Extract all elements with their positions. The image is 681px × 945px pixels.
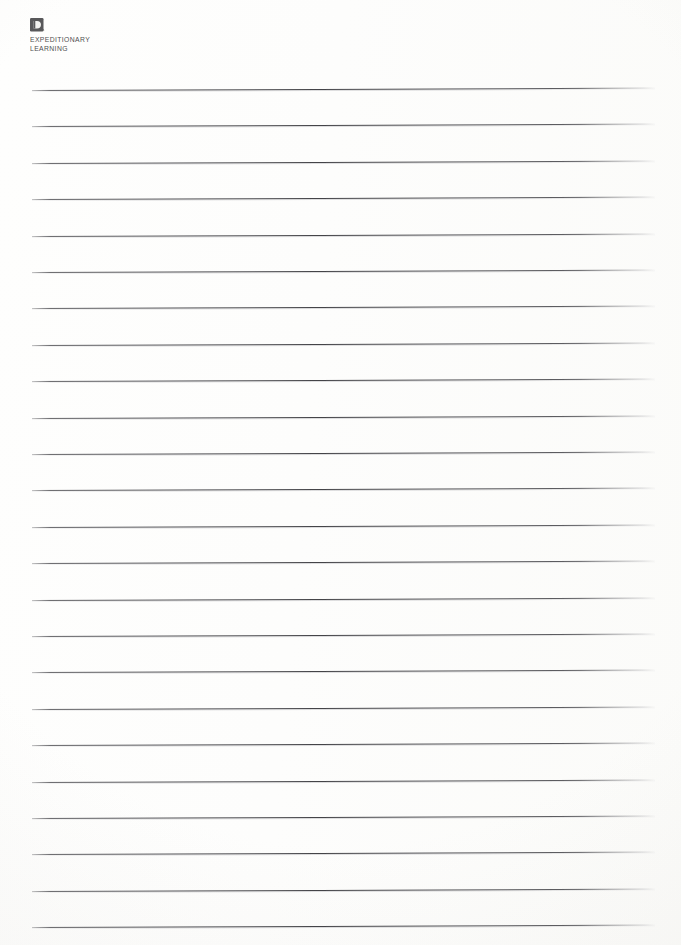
ruled-line <box>32 415 655 418</box>
ruled-line <box>32 88 655 91</box>
ruled-line <box>32 197 655 200</box>
worksheet-page: EXPEDITIONARY LEARNING <box>0 0 681 945</box>
ruled-line <box>32 342 655 345</box>
ruled-line <box>32 670 655 673</box>
ruled-line <box>32 779 655 782</box>
ruled-line <box>32 561 655 564</box>
ruled-lines-area <box>0 0 681 945</box>
ruled-line <box>32 706 655 709</box>
ruled-line <box>32 160 655 163</box>
ruled-line <box>32 888 655 891</box>
ruled-line <box>32 270 655 273</box>
ruled-line <box>32 233 655 236</box>
ruled-line <box>32 816 655 819</box>
ruled-line <box>32 852 655 855</box>
ruled-line <box>32 925 655 928</box>
ruled-line <box>32 634 655 637</box>
ruled-line <box>32 306 655 309</box>
ruled-line <box>32 488 655 491</box>
ruled-line <box>32 524 655 527</box>
ruled-line <box>32 124 655 127</box>
ruled-line <box>32 743 655 746</box>
ruled-line <box>32 452 655 455</box>
ruled-line <box>32 379 655 382</box>
ruled-line <box>32 597 655 600</box>
